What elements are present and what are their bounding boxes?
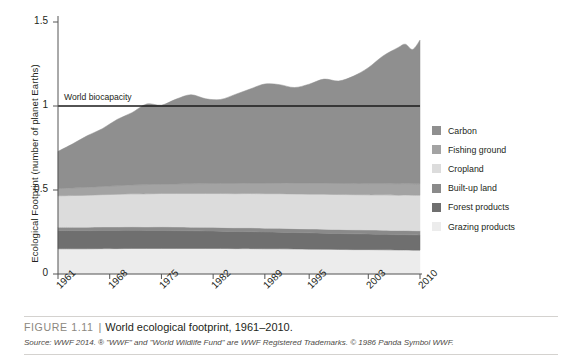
y-axis-tick-label: 1.5	[20, 15, 48, 26]
figure-title: World ecological footprint, 1961–2010.	[105, 321, 293, 333]
legend-swatch-icon	[432, 145, 441, 154]
figure-caption-block: FIGURE 1.11|World ecological footprint, …	[0, 316, 582, 362]
caption-separator: |	[98, 321, 101, 333]
legend-item: Grazing products	[432, 217, 578, 236]
legend-swatch-icon	[432, 203, 441, 212]
area-series-cropland	[58, 194, 420, 231]
biocapacity-annotation-label: World biocapacity	[64, 92, 132, 102]
legend-item: Built-up land	[432, 179, 578, 198]
figure-number: FIGURE 1.11	[24, 321, 93, 333]
caption-rule-top	[24, 316, 558, 317]
area-series-grazing-products	[58, 248, 420, 274]
y-axis-tick-label: 1	[20, 99, 48, 110]
legend-label: Built-up land	[448, 183, 497, 193]
legend-label: Cropland	[448, 164, 484, 174]
legend-item: Carbon	[432, 121, 578, 140]
chart-area: Ecological Footprint (number of planet E…	[0, 8, 582, 313]
legend-label: Grazing products	[448, 222, 515, 232]
legend-label: Forest products	[448, 202, 509, 212]
legend-label: Fishing ground	[448, 145, 506, 155]
figure-source-note: Source: WWF 2014. ® "WWF" and "World Wil…	[24, 338, 454, 347]
y-axis-tick-label: 0	[20, 267, 48, 278]
caption-rule-bottom	[24, 354, 558, 355]
figure-container: Ecological Footprint (number of planet E…	[0, 0, 582, 362]
legend-item: Cropland	[432, 159, 578, 178]
legend-item: Fishing ground	[432, 140, 578, 159]
legend-swatch-icon	[432, 222, 441, 231]
chart-legend: CarbonFishing groundCroplandBuilt-up lan…	[432, 121, 578, 236]
legend-item: Forest products	[432, 198, 578, 217]
legend-swatch-icon	[432, 184, 441, 193]
caption-line: FIGURE 1.11|World ecological footprint, …	[24, 321, 293, 333]
area-series-carbon	[58, 40, 420, 189]
legend-swatch-icon	[432, 164, 441, 173]
legend-swatch-icon	[432, 126, 441, 135]
y-axis-tick-label: 0.5	[20, 183, 48, 194]
legend-label: Carbon	[448, 126, 477, 136]
